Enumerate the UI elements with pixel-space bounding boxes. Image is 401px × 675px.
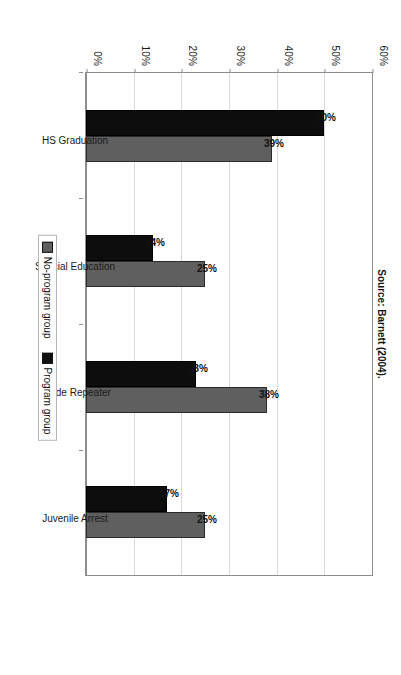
bar[interactable]: 38% xyxy=(86,386,267,412)
y-axis-tick-label: 40% xyxy=(282,45,293,66)
y-axis-tick-label: 20% xyxy=(186,45,197,66)
bar-group: 14%25% xyxy=(86,198,372,324)
bar-group: 17%25% xyxy=(86,449,372,575)
source-note: Source: Barnett (2004). xyxy=(376,72,387,576)
legend-label-program: Program group xyxy=(42,367,53,434)
bar-value-label: 14% xyxy=(144,237,164,248)
x-axis-category: Juvenile Arrest xyxy=(17,450,83,576)
x-axis-tick-mark xyxy=(79,324,83,325)
bar[interactable]: 17% xyxy=(86,486,167,512)
y-axis-tick-mark xyxy=(134,69,135,73)
y-axis-tick-mark xyxy=(181,69,182,73)
x-axis-category-label: HS Graduation xyxy=(41,135,107,146)
y-axis-tick-mark xyxy=(324,69,325,73)
bar-value-label: 23% xyxy=(187,362,207,373)
legend-swatch-program-icon xyxy=(42,352,53,363)
plot-area: 0%10%20%30%40%50%60% 50%39%14%25%23%38%1… xyxy=(85,72,373,576)
y-axis-tick-label: 60% xyxy=(377,45,388,66)
y-axis-tick-mark xyxy=(229,69,230,73)
legend-item-no-program: No-program group xyxy=(42,241,53,338)
bar-group: 23%38% xyxy=(86,324,372,450)
chart-page: Source: Barnett (2004). 0%10%20%30%40%50… xyxy=(0,0,401,675)
x-axis-tick-mark xyxy=(79,450,83,451)
bar-groups: 50%39%14%25%23%38%17%25% xyxy=(86,73,372,575)
rotated-figure: Source: Barnett (2004). 0%10%20%30%40%50… xyxy=(15,28,387,648)
bar-value-label: 25% xyxy=(197,263,217,274)
bar-value-label: 17% xyxy=(159,488,179,499)
x-axis-tick-mark xyxy=(79,72,83,73)
y-axis-tick-label: 30% xyxy=(234,45,245,66)
bar-group: 50%39% xyxy=(86,73,372,199)
bar[interactable]: 50% xyxy=(86,109,324,135)
chart-legend: No-program group Program group xyxy=(38,234,57,440)
y-axis-tick-label: 10% xyxy=(139,45,150,66)
y-axis-tick-label: 0% xyxy=(91,51,102,66)
bar[interactable]: 14% xyxy=(86,235,153,261)
bar-value-label: 38% xyxy=(259,388,279,399)
bar-value-label: 39% xyxy=(263,137,283,148)
x-axis-tick-mark xyxy=(79,198,83,199)
legend-swatch-no-program-icon xyxy=(42,241,53,252)
bar[interactable]: 23% xyxy=(86,360,196,386)
bar-value-label: 50% xyxy=(316,111,336,122)
bar-chart: Source: Barnett (2004). 0%10%20%30%40%50… xyxy=(15,28,387,648)
x-axis-category-label: Juvenile Arrest xyxy=(42,513,108,524)
y-axis-tick-mark xyxy=(277,69,278,73)
legend-item-program: Program group xyxy=(42,352,53,434)
bar[interactable]: 39% xyxy=(86,135,272,161)
y-axis-tick-label: 50% xyxy=(329,45,340,66)
legend-label-no-program: No-program group xyxy=(42,256,53,338)
bar-value-label: 25% xyxy=(197,514,217,525)
x-axis-category: HS Graduation xyxy=(17,72,83,198)
y-axis-tick-mark xyxy=(86,69,87,73)
y-axis-tick-mark xyxy=(372,69,373,73)
